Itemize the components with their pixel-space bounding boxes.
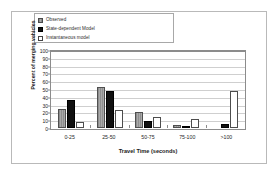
legend-item-state-dependent-model: State-dependent Model — [38, 25, 173, 33]
y-axis-tick-mark — [48, 58, 50, 59]
y-axis-tick-label: 50 — [36, 87, 48, 93]
bar — [173, 125, 181, 128]
y-axis-tick-label: 0 — [36, 126, 48, 132]
y-axis-tick-label: 30 — [36, 103, 48, 109]
bar-group — [90, 52, 128, 128]
bar — [67, 100, 75, 128]
bar — [76, 122, 84, 128]
y-axis-tick-label: 90 — [36, 56, 48, 62]
y-axis-tick-label: 20 — [36, 110, 48, 116]
y-axis-tick-mark — [48, 74, 50, 75]
plot-area — [50, 50, 246, 130]
legend-item-observed: Observed — [38, 16, 173, 24]
x-axis-tick-label: >100 — [207, 134, 246, 140]
plot-wrapper: 1009080706050403020100 — [50, 50, 246, 130]
legend-item-instantaneous-model: Instantaneous model — [38, 34, 173, 42]
y-axis-tick-mark — [48, 121, 50, 122]
bar-group — [206, 52, 244, 128]
y-axis-tick-label: 10 — [36, 118, 48, 124]
x-axis-title: Travel Time (seconds) — [50, 148, 246, 154]
y-axis-tick-mark — [48, 97, 50, 98]
x-axis-tick-label: 25-50 — [89, 134, 128, 140]
bar-group — [52, 52, 90, 128]
bar — [58, 109, 66, 128]
y-axis-tick-mark — [48, 51, 50, 52]
white-swatch — [38, 36, 43, 41]
x-axis-tick-label: 75-100 — [168, 134, 207, 140]
y-axis-tick-mark — [48, 113, 50, 114]
bar — [106, 91, 114, 128]
bar — [153, 117, 161, 128]
y-axis-tick-mark — [48, 105, 50, 106]
y-axis-tick-mark — [48, 90, 50, 91]
bar-group — [167, 52, 205, 128]
bar — [135, 112, 143, 128]
chart-legend: Observed State-dependent Model Instantan… — [34, 13, 174, 43]
x-axis-tick-label: 0-25 — [50, 134, 89, 140]
legend-item-label: Instantaneous model — [46, 35, 90, 41]
gray-hatched-swatch — [38, 18, 43, 23]
bar — [182, 126, 190, 128]
bar — [115, 110, 123, 128]
legend-item-label: Observed — [46, 17, 66, 23]
y-axis-tick-label: 60 — [36, 79, 48, 85]
bar — [191, 119, 199, 128]
y-axis-tick-label: 70 — [36, 71, 48, 77]
y-axis-tick-mark — [48, 129, 50, 130]
bars-layer — [52, 52, 244, 128]
bar — [221, 124, 229, 128]
bar — [97, 87, 105, 128]
y-axis-tick-label: 100 — [36, 48, 48, 54]
y-axis-tick-mark — [48, 82, 50, 83]
black-swatch — [38, 27, 43, 32]
x-axis-tick-label: 50-75 — [128, 134, 167, 140]
figure-frame: Observed State-dependent Model Instantan… — [11, 11, 267, 164]
bar-group — [129, 52, 167, 128]
bar — [144, 121, 152, 128]
x-axis-ticks: 0-2525-5050-7575-100>100 — [50, 134, 246, 140]
legend-item-label: State-dependent Model — [46, 26, 95, 32]
y-axis-tick-label: 40 — [36, 95, 48, 101]
bar — [230, 91, 238, 128]
y-axis-tick-label: 80 — [36, 64, 48, 70]
y-axis-tick-mark — [48, 66, 50, 67]
